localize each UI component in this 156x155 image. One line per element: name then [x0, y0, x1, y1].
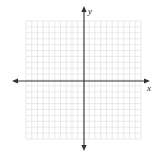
- x-axis-left-arrow-icon: [12, 78, 18, 83]
- y-axis-bottom-arrow-icon: [81, 145, 86, 151]
- y-axis-top-arrow-icon: [81, 6, 86, 12]
- coordinate-plane: x y: [0, 0, 156, 155]
- y-axis-label: y: [87, 6, 92, 16]
- x-axis-label: x: [146, 83, 151, 93]
